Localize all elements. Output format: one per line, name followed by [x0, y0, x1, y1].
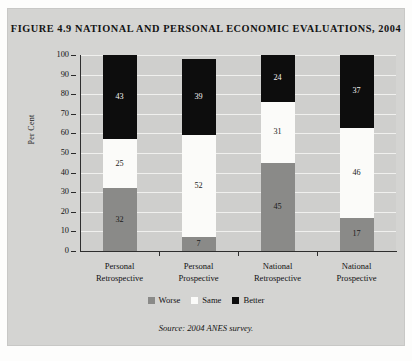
legend-swatch-icon	[232, 297, 239, 304]
bar-value-label: 43	[115, 93, 123, 101]
plot-area: 32254375239453124174637	[80, 55, 396, 251]
bar-value-label: 25	[115, 160, 123, 168]
legend-swatch-icon	[148, 297, 155, 304]
y-axis-tick-mark	[71, 173, 76, 174]
y-axis-tick-label: 90	[61, 70, 69, 78]
bar-segment-worse[interactable]: 45	[261, 163, 295, 251]
chart-plot: Per Cent 0102030405060708090100 32254375…	[32, 55, 396, 258]
y-axis-tick-label: 0	[65, 247, 69, 255]
bar-stack[interactable]: 174637	[340, 55, 374, 251]
legend-swatch-icon	[191, 297, 198, 304]
bar-stack[interactable]: 453124	[261, 55, 295, 251]
bar-segment-worse[interactable]: 17	[340, 218, 374, 251]
y-axis-tick-mark	[71, 192, 76, 193]
bar-value-label: 39	[194, 93, 202, 101]
x-axis-tick-mark	[238, 252, 239, 256]
bar-segment-better[interactable]: 37	[340, 55, 374, 128]
bar-segment-worse[interactable]: 32	[103, 188, 137, 251]
y-axis-tick-label: 70	[61, 110, 69, 118]
y-axis-tick-mark	[71, 231, 76, 232]
bar-segment-same[interactable]: 46	[340, 128, 374, 218]
bar-segment-better[interactable]: 43	[103, 55, 137, 139]
figure-card: FIGURE 4.9 NATIONAL AND PERSONAL ECONOMI…	[8, 9, 404, 345]
bar-stack[interactable]: 322543	[103, 55, 137, 251]
legend-label: Worse	[159, 296, 181, 305]
bar-value-label: 45	[273, 203, 281, 211]
chart-legend: WorseSameBetter	[8, 296, 404, 305]
legend-item[interactable]: Same	[191, 296, 221, 305]
y-axis-tick-mark	[71, 153, 76, 154]
legend-item[interactable]: Worse	[148, 296, 181, 305]
bar-value-label: 31	[273, 128, 281, 136]
y-axis-tick-mark	[71, 212, 76, 213]
y-axis-tick-mark	[71, 114, 76, 115]
y-axis-tick-label: 40	[61, 168, 69, 176]
bar-segment-same[interactable]: 25	[103, 139, 137, 188]
y-axis-tick-label: 80	[61, 90, 69, 98]
y-axis-tick-label: 60	[61, 129, 69, 137]
bar-value-label: 46	[352, 169, 360, 177]
bar-value-label: 24	[273, 74, 281, 82]
y-axis-tick-label: 20	[61, 208, 69, 216]
x-axis-category-label: NationalProspective	[303, 261, 411, 284]
y-axis-tick-mark	[71, 94, 76, 95]
bar-value-label: 17	[352, 230, 360, 238]
x-axis-category-label-line: National	[303, 261, 411, 273]
y-axis-tick-mark	[71, 133, 76, 134]
bar-segment-same[interactable]: 31	[261, 102, 295, 163]
legend-item[interactable]: Better	[232, 296, 264, 305]
y-axis-tick-mark	[71, 75, 76, 76]
bar-value-label: 7	[196, 240, 200, 248]
y-axis-line	[80, 55, 81, 252]
source-note: Source: 2004 ANES survey.	[8, 323, 404, 333]
y-axis-tick-labels: 0102030405060708090100	[32, 55, 78, 258]
x-axis-tick-mark	[317, 252, 318, 256]
legend-label: Better	[243, 296, 264, 305]
bar-stack[interactable]: 75239	[182, 55, 216, 251]
x-axis-tick-mark	[159, 252, 160, 256]
bar-segment-better[interactable]: 24	[261, 55, 295, 102]
bar-segment-same[interactable]: 52	[182, 135, 216, 237]
y-axis-tick-label: 50	[61, 149, 69, 157]
bar-segment-better[interactable]: 39	[182, 59, 216, 135]
y-axis-tick-label: 10	[61, 227, 69, 235]
legend-label: Same	[202, 296, 221, 305]
bar-segment-worse[interactable]: 7	[182, 237, 216, 251]
x-axis-category-label-line: Prospective	[303, 273, 411, 285]
bar-value-label: 52	[194, 182, 202, 190]
y-axis-tick-label: 100	[56, 51, 69, 59]
y-axis-tick-mark	[71, 251, 76, 252]
y-axis-tick-label: 30	[61, 188, 69, 196]
bar-value-label: 37	[352, 87, 360, 95]
bar-value-label: 32	[115, 216, 123, 224]
y-axis-tick-mark	[71, 55, 76, 56]
page-title: FIGURE 4.9 NATIONAL AND PERSONAL ECONOMI…	[8, 23, 404, 34]
